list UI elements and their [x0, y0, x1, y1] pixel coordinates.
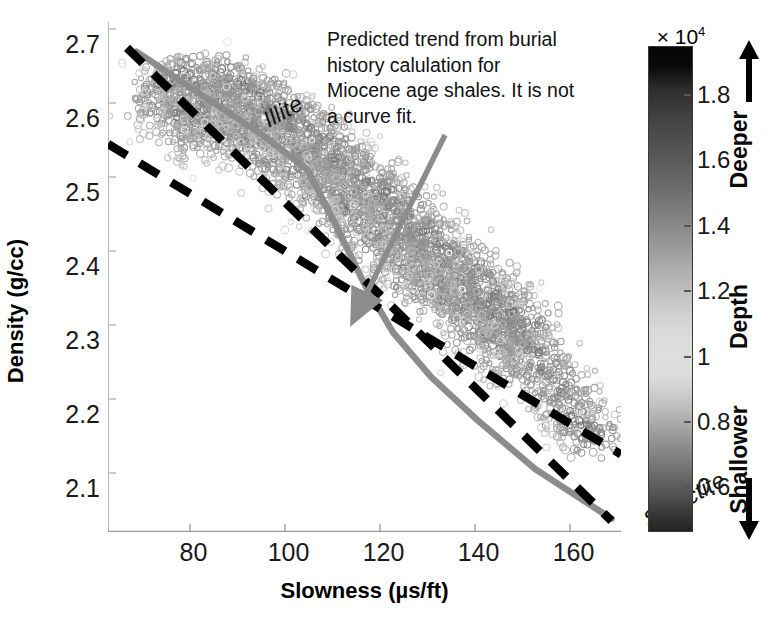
scatter-point: [602, 409, 608, 415]
x-tick-label: 80: [180, 540, 208, 565]
scatter-point: [500, 400, 508, 408]
y-tick-label: 2.3: [65, 327, 100, 352]
scatter-point: [146, 122, 153, 129]
scatter-point: [288, 219, 293, 224]
colorbar-tick-label: 1: [697, 345, 710, 369]
scatter-point: [440, 203, 447, 210]
scatter-point: [132, 79, 137, 84]
scatter-point: [166, 125, 174, 133]
colorbar-gradient: [648, 46, 693, 532]
scatter-point: [572, 362, 578, 368]
scatter-point: [189, 62, 194, 67]
scatter-point: [488, 227, 493, 232]
x-axis-tick-labels: 80100120140160: [108, 540, 621, 574]
y-tick-marks: [108, 29, 116, 473]
scatter-point: [363, 129, 370, 136]
scatter-point: [392, 292, 397, 297]
scatter-point: [554, 302, 562, 310]
scatter-point: [224, 38, 231, 45]
scatter-point: [539, 280, 544, 285]
scatter-point: [589, 448, 597, 456]
scatter-point: [223, 52, 230, 59]
x-tick-label: 140: [458, 540, 500, 565]
scatter-point: [174, 146, 180, 152]
scatter-point: [598, 455, 605, 462]
scatter-point: [578, 372, 585, 379]
scatter-point: [545, 310, 551, 316]
y-tick-label: 2.6: [65, 106, 100, 131]
colorbar-tick-mark: [684, 94, 691, 96]
scatter-point: [597, 389, 602, 394]
scatter-point: [190, 175, 196, 181]
scatter-point: [281, 226, 289, 234]
scatter-point: [555, 310, 562, 317]
y-tick-label: 2.2: [65, 401, 100, 426]
colorbar-exponent-prefix: × 10: [657, 25, 698, 48]
colorbar-tick-mark: [684, 486, 691, 488]
scatter-point: [403, 160, 408, 165]
scatter-point: [561, 373, 567, 379]
scatter-point: [543, 444, 550, 451]
scatter-point: [314, 102, 321, 109]
y-tick-label: 2.4: [65, 253, 100, 278]
scatter-point: [617, 416, 621, 423]
scatter-point: [567, 454, 575, 462]
scatter-point: [460, 238, 465, 243]
scatter-point: [603, 415, 608, 420]
scatter-point: [537, 286, 543, 292]
scatter-point: [464, 218, 470, 224]
scatter-point: [535, 307, 541, 313]
scatter-point: [487, 383, 493, 389]
scatter-point: [609, 435, 615, 441]
colorbar-tick-mark: [684, 356, 691, 358]
scatter-point: [431, 194, 436, 199]
x-tick-label: 100: [268, 540, 310, 565]
scatter-point: [423, 193, 429, 199]
scatter-point: [616, 407, 621, 413]
scatter-point: [378, 134, 383, 139]
annotation-text: Predicted trend from burial history calu…: [327, 27, 577, 130]
scatter-point: [282, 70, 290, 78]
scatter-point: [456, 207, 462, 213]
scatter-point: [127, 139, 133, 145]
scatter-point: [444, 341, 450, 347]
scatter-point: [231, 69, 238, 76]
colorbar: × 104 1.81.61.41.210.80.6 Deeper Depth S…: [640, 18, 774, 578]
y-tick-label: 2.7: [65, 32, 100, 57]
scatter-point: [584, 441, 591, 448]
x-tick-label: 120: [363, 540, 405, 565]
scatter-point: [322, 250, 330, 258]
y-tick-label: 2.1: [65, 475, 100, 500]
scatter-point: [438, 370, 444, 376]
chart-figure: Density (g/cc) 2.12.22.32.42.52.62.7: [0, 0, 774, 621]
colorbar-depth-label: Depth: [726, 252, 753, 382]
y-axis-tick-labels: 2.12.22.32.42.52.62.7: [0, 22, 100, 532]
scatter-point: [362, 246, 369, 253]
colorbar-tick-mark: [684, 290, 691, 292]
scatter-point: [592, 368, 597, 373]
scatter-point: [506, 259, 513, 266]
scatter-point: [238, 190, 245, 197]
scatter-point: [542, 301, 548, 307]
scatter-point: [448, 326, 455, 333]
scatter-point: [296, 224, 302, 230]
scatter-point: [289, 71, 296, 78]
scatter-point: [303, 215, 309, 221]
scatter-point: [588, 402, 595, 409]
scatter-point: [265, 205, 272, 212]
colorbar-tick-mark: [684, 421, 691, 423]
scatter-point: [585, 372, 591, 378]
x-axis-title: Slowness (µs/ft): [108, 578, 621, 604]
y-tick-label: 2.5: [65, 180, 100, 205]
colorbar-tick-label: 1.4: [697, 214, 730, 238]
colorbar-shallower-label: Shallower: [726, 380, 753, 540]
scatter-point: [403, 187, 409, 193]
scatter-point: [417, 317, 422, 322]
scatter-point: [584, 366, 590, 372]
colorbar-exponent-power: 4: [698, 24, 705, 39]
scatter-point: [440, 191, 445, 196]
scatter-point: [577, 341, 582, 346]
scatter-point: [305, 228, 310, 233]
colorbar-tick-mark: [684, 159, 691, 161]
scatter-point: [156, 139, 162, 145]
